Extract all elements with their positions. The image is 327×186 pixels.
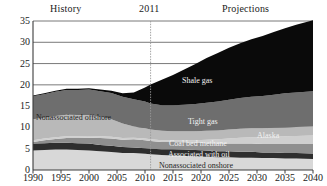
y-tick-label: 30 — [6, 37, 30, 47]
y-tick-label: 10 — [6, 122, 30, 132]
x-tick-label: 2030 — [247, 172, 267, 183]
x-tick-label: 1990 — [23, 172, 43, 183]
x-axis-labels: 1990199520002005201020152020202520302035… — [0, 170, 327, 186]
x-tick-label: 1995 — [51, 172, 71, 183]
x-tick-label: 2000 — [79, 172, 99, 183]
y-axis-labels: 05101520253035 — [0, 0, 30, 186]
plot-area — [0, 0, 327, 186]
x-tick-label: 2020 — [191, 172, 211, 183]
x-tick-label: 2015 — [163, 172, 183, 183]
x-tick-label: 2040 — [303, 172, 323, 183]
y-tick-label: 35 — [6, 16, 30, 26]
y-tick-label: 20 — [6, 80, 30, 90]
x-tick-label: 2025 — [219, 172, 239, 183]
x-tick-label: 2010 — [135, 172, 155, 183]
x-tick-label: 2005 — [107, 172, 127, 183]
y-tick-label: 15 — [6, 101, 30, 111]
x-tick-label: 2035 — [275, 172, 295, 183]
y-tick-label: 25 — [6, 59, 30, 69]
natural-gas-production-chart: History 2011 Projections 05101520253035 … — [0, 0, 327, 186]
y-tick-label: 5 — [6, 144, 30, 154]
